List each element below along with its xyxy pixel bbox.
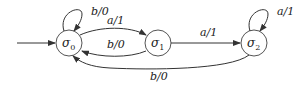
state-s0: σ0 — [56, 30, 82, 56]
transition-s2-s0 — [73, 55, 249, 69]
transition-label: a/1 — [277, 5, 294, 18]
transition-label: b/0 — [107, 38, 125, 51]
transition-s0-s1 — [80, 28, 146, 35]
state-s1: σ1 — [145, 30, 171, 56]
transition-s0-s0 — [63, 10, 82, 31]
transition-s1-s0 — [82, 51, 146, 56]
state-s2: σ2 — [241, 30, 267, 56]
transition-label: b/0 — [150, 70, 168, 83]
transition-label: a/1 — [107, 14, 124, 27]
state-diagram: σ0 σ1 σ2 b/0 a/1 b/0 a/1 a/1 b/0 — [0, 0, 302, 85]
transition-s2-s2 — [249, 10, 268, 31]
transition-label: a/1 — [200, 26, 217, 39]
